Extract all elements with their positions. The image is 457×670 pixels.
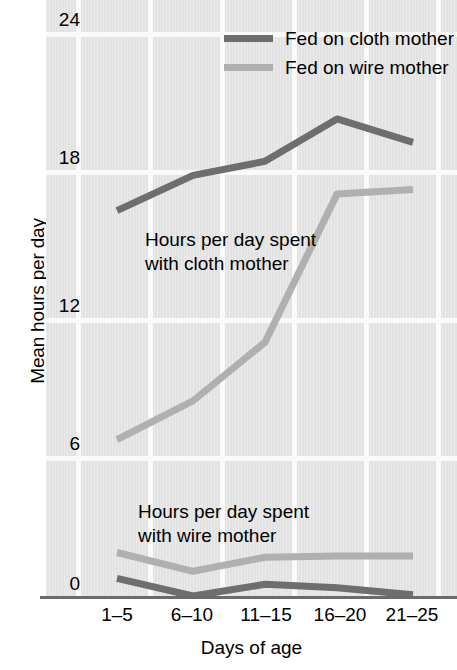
- plot-area: Fed on cloth mother Fed on wire mother H…: [46, 0, 457, 597]
- chart-legend: Fed on cloth mother Fed on wire mother: [224, 24, 454, 82]
- x-tick-label-21-25: 21–25: [369, 604, 455, 626]
- chart-container: Mean hours per day Fed on cloth mother: [0, 0, 457, 670]
- series-line-wire-lower: [117, 553, 413, 572]
- y-tick-label-0: 0: [40, 573, 80, 595]
- legend-item-cloth: Fed on cloth mother: [224, 24, 454, 53]
- y-tick-label-24: 24: [40, 9, 80, 31]
- y-tick-label-18: 18: [40, 147, 80, 169]
- series-line-cloth-upper: [117, 119, 413, 211]
- x-axis-line: [40, 596, 457, 599]
- legend-swatch-wire-icon: [224, 64, 273, 71]
- x-tick-label-1-5: 1–5: [74, 604, 160, 626]
- legend-label-wire: Fed on wire mother: [285, 57, 449, 79]
- legend-label-cloth: Fed on cloth mother: [285, 28, 454, 50]
- series-line-cloth-lower: [117, 578, 413, 596]
- annotation-cloth-mother: Hours per day spent with cloth mother: [145, 228, 316, 276]
- annotation-wire-mother: Hours per day spent with wire mother: [138, 500, 309, 548]
- y-tick-label-6: 6: [40, 433, 80, 455]
- series-line-wire-upper: [117, 189, 413, 439]
- legend-item-wire: Fed on wire mother: [224, 53, 454, 82]
- y-tick-label-12: 12: [40, 295, 80, 317]
- legend-swatch-cloth-icon: [224, 35, 273, 42]
- x-axis-title: Days of age: [46, 637, 457, 659]
